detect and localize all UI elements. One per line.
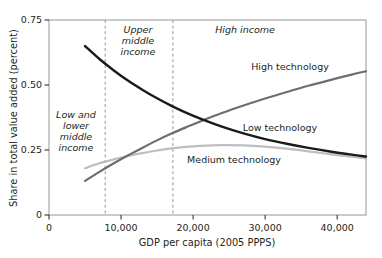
region-label-line-3: middle	[60, 131, 93, 142]
region-label-line-2: lower	[63, 120, 90, 131]
region-label-line-1: Upper	[124, 24, 154, 35]
y-tick-label-3: 0.75	[21, 14, 42, 25]
region-label-line-3: income	[121, 46, 156, 57]
series-label-high-technology: High technology	[251, 61, 329, 72]
region-label-line-2: middle	[122, 35, 155, 46]
chart-background	[0, 0, 382, 258]
x-tick-label-1: 10,000	[104, 222, 137, 233]
region-label-line-1: High income	[215, 24, 275, 35]
chart-figure: 00.250.500.75 010,00020,00030,00040,000 …	[0, 0, 382, 258]
y-tick-label-0: 0	[36, 209, 42, 220]
x-axis-title: GDP per capita (2005 PPPS)	[139, 237, 275, 248]
region-label-line-4: income	[59, 142, 94, 153]
series-label-medium-technology: Medium technology	[187, 154, 281, 165]
region-label-line-1: Low and	[56, 109, 97, 120]
technology-share-line-chart: 00.250.500.75 010,00020,00030,00040,000 …	[0, 0, 382, 258]
region-label-high-income: High income	[215, 24, 275, 35]
x-tick-label-0: 0	[46, 222, 52, 233]
series-label-low-technology: Low technology	[243, 122, 318, 133]
region-label-upper-middle-income: Upper middle income	[121, 24, 156, 57]
y-tick-label-1: 0.25	[21, 144, 42, 155]
region-label-low-and-lower-middle-income: Low and lower middle income	[56, 109, 97, 153]
y-tick-label-2: 0.50	[21, 79, 42, 90]
x-tick-label-4: 40,000	[321, 222, 354, 233]
x-tick-label-3: 30,000	[249, 222, 282, 233]
x-tick-label-2: 20,000	[176, 222, 209, 233]
y-axis-title: Share in total value added (percent)	[8, 29, 19, 207]
